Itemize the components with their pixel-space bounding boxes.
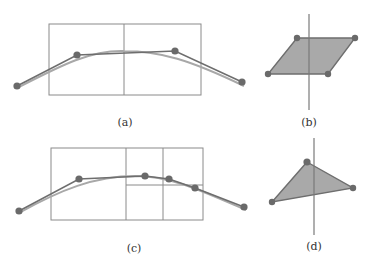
figure-canvas [0,0,372,271]
triangle [272,162,353,202]
caption-c: (c) [127,242,142,255]
control-polygon [19,176,244,211]
parallelogram [268,38,355,74]
control-points [13,47,245,89]
panel-a [13,24,245,95]
panel-c [15,148,247,220]
panel-d [269,138,356,235]
smooth-curve [17,51,244,88]
control-polygon [17,51,242,86]
panel-b [265,14,358,110]
caption-a: (a) [117,116,132,129]
caption-b: (b) [301,116,317,129]
caption-d: (d) [306,240,322,253]
